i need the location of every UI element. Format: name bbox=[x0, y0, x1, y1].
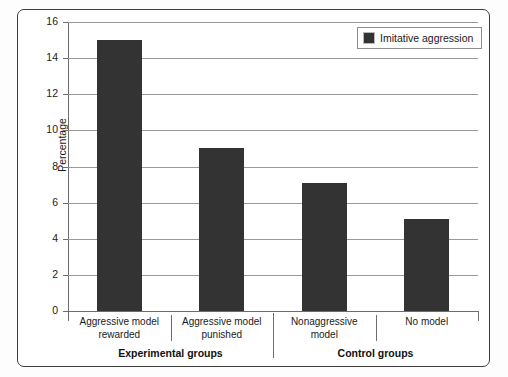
y-axis-tick-label: 4 bbox=[26, 233, 58, 244]
y-axis-tick bbox=[63, 203, 68, 204]
category-label-line: Aggressive model bbox=[171, 316, 274, 329]
y-axis-tick bbox=[63, 275, 68, 276]
y-axis-tick-label: 12 bbox=[26, 88, 58, 99]
category-label-line: Aggressive model bbox=[68, 316, 171, 329]
y-axis-tick bbox=[63, 58, 68, 59]
category-label: Aggressive modelrewarded bbox=[68, 316, 171, 341]
category-label: No model bbox=[376, 316, 479, 329]
y-axis-tick bbox=[63, 130, 68, 131]
category-label-line: rewarded bbox=[68, 329, 171, 342]
y-axis-tick-label: 0 bbox=[26, 305, 58, 316]
group-label: Control groups bbox=[273, 347, 478, 359]
chart-legend: Imitative aggression bbox=[357, 27, 482, 49]
bar bbox=[302, 183, 347, 311]
chart-figure: Percentage 0246810121416 Aggressive mode… bbox=[0, 0, 508, 377]
y-axis-tick bbox=[63, 167, 68, 168]
category-label: Nonaggressivemodel bbox=[273, 316, 376, 341]
category-label-line: punished bbox=[171, 329, 274, 342]
y-axis-title: Percentage bbox=[56, 105, 68, 185]
y-axis-tick-label: 16 bbox=[26, 16, 58, 27]
y-axis-tick-label: 10 bbox=[26, 124, 58, 135]
bar bbox=[199, 148, 244, 311]
category-separator bbox=[478, 311, 479, 321]
legend-color-swatch bbox=[363, 32, 375, 44]
category-label-line: model bbox=[273, 329, 376, 342]
legend-item-label: Imitative aggression bbox=[380, 32, 473, 44]
plot-area: 0246810121416 bbox=[68, 22, 478, 311]
y-axis-tick-label: 14 bbox=[26, 52, 58, 63]
category-label-line: No model bbox=[376, 316, 479, 329]
y-axis-tick bbox=[63, 94, 68, 95]
group-label: Experimental groups bbox=[68, 347, 273, 359]
bar bbox=[404, 219, 449, 311]
gridline bbox=[68, 22, 478, 23]
category-label-line: Nonaggressive bbox=[273, 316, 376, 329]
y-axis-tick bbox=[63, 22, 68, 23]
bar bbox=[97, 40, 142, 311]
category-label: Aggressive modelpunished bbox=[171, 316, 274, 341]
y-axis-tick-label: 6 bbox=[26, 197, 58, 208]
y-axis-tick-label: 2 bbox=[26, 269, 58, 280]
y-axis-tick bbox=[63, 239, 68, 240]
y-axis-tick-label: 8 bbox=[26, 161, 58, 172]
